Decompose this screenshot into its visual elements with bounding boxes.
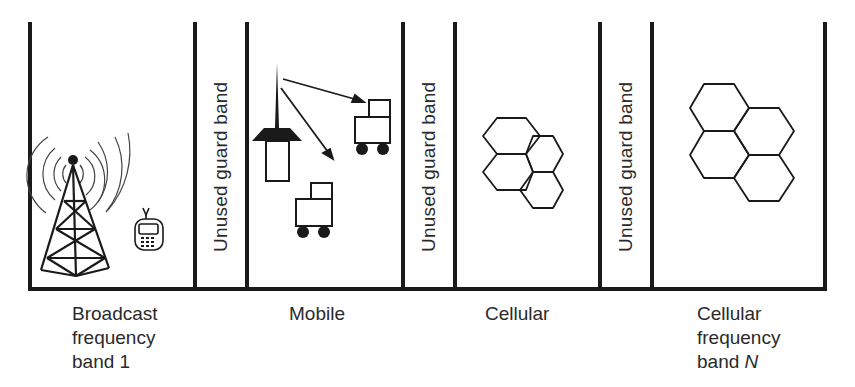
band-label-broadcast: Broadcast frequency band 1 xyxy=(72,302,158,374)
vehicle-icon xyxy=(355,100,390,155)
band-label-cellular-band-n: Cellular frequency band N xyxy=(697,302,780,374)
guard-band-label: Unused guard band xyxy=(210,82,232,252)
hexagon-cells-icon xyxy=(483,118,563,208)
base-station-icon xyxy=(252,62,302,181)
vehicle-icon xyxy=(296,183,332,238)
guard-band-label: Unused guard band xyxy=(615,82,637,252)
band-label-cellular: Cellular xyxy=(485,302,549,326)
guard-band-label: Unused guard band xyxy=(418,82,440,252)
cell-phone-icon xyxy=(135,208,163,250)
broadcast-tower-icon xyxy=(27,133,130,276)
signal-arrows xyxy=(281,79,364,159)
band-label-mobile: Mobile xyxy=(289,302,345,326)
hexagon-cells-icon xyxy=(690,84,794,201)
